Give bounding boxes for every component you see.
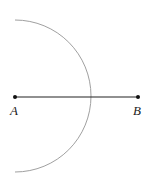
point-b	[136, 95, 140, 99]
label-b: B	[133, 103, 141, 118]
label-a: A	[9, 103, 18, 118]
point-a	[13, 95, 17, 99]
construction-diagram: A B	[0, 0, 148, 176]
compass-arc	[15, 20, 91, 172]
